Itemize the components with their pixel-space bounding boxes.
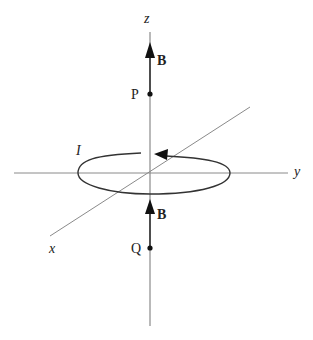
- diagram-canvas: z y x I B P B Q: [0, 0, 313, 340]
- point-q-label: Q: [131, 242, 141, 256]
- b-field-label-q: B: [157, 208, 166, 222]
- current-direction-arrow: [154, 149, 168, 160]
- b-field-label-p: B: [157, 54, 166, 68]
- current-label: I: [76, 144, 81, 158]
- b-field-arrow-p-head: [145, 42, 155, 58]
- diagram-graphics: [0, 0, 313, 340]
- b-field-arrow-q-head: [145, 199, 155, 214]
- y-axis-label: y: [294, 165, 300, 179]
- z-axis-label: z: [144, 12, 149, 26]
- x-axis-label: x: [49, 242, 55, 256]
- point-q-dot: [147, 245, 152, 250]
- point-p-label: P: [131, 88, 139, 102]
- point-p-dot: [147, 91, 152, 96]
